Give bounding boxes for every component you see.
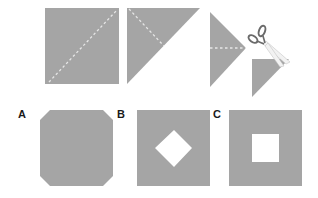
folding-diagram bbox=[0, 0, 318, 198]
option-b-diamond-hole bbox=[137, 110, 210, 186]
option-c-square-hole bbox=[229, 110, 302, 186]
option-label-b: B bbox=[117, 109, 125, 120]
step-3-triangle bbox=[210, 12, 246, 87]
step-2-triangle bbox=[127, 8, 200, 84]
option-a-octagon bbox=[40, 110, 113, 186]
option-label-c: C bbox=[213, 109, 221, 120]
step-1-square bbox=[45, 8, 119, 84]
option-label-a: A bbox=[18, 109, 26, 120]
step-4-cut-triangle bbox=[252, 59, 289, 97]
